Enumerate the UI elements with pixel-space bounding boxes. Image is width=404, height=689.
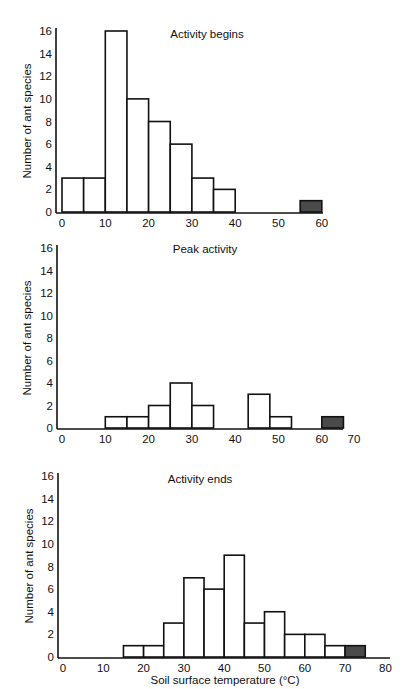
y-tick-label: 0 [46,206,52,218]
y-tick-label: 6 [48,583,54,595]
x-tick-label: 60 [298,662,311,674]
x-tick-label: 50 [272,433,285,445]
x-tick-label: 20 [142,433,155,445]
x-tick-label: 20 [142,217,155,229]
chart-title: Activity ends [168,473,233,485]
x-tick-label: 70 [339,662,352,674]
bar [270,417,292,428]
chart-title: Peak activity [173,243,238,255]
x-tick-label: 60 [315,433,328,445]
bar [204,589,224,657]
x-tick-label: 30 [178,662,191,674]
x-tick-label: 60 [315,217,328,229]
bar [244,623,264,657]
bar [325,646,345,657]
bar [224,555,244,657]
x-tick-label: 80 [379,662,392,674]
x-tick-label: 20 [137,662,150,674]
bar [214,189,236,212]
bar [105,417,127,428]
shaded-bar [300,201,322,212]
bar [62,178,84,212]
x-tick-label: 40 [229,433,242,445]
x-tick-label: 40 [229,217,242,229]
bar [164,623,184,657]
y-tick-label: 12 [40,287,53,299]
y-tick-label: 8 [46,116,52,128]
histogram-panel-3: 024681012141601020304050607080Activity e… [23,470,392,686]
y-tick-label: 4 [48,606,55,618]
y-tick-label: 12 [41,515,54,527]
y-tick-label: 14 [40,265,53,277]
bar [248,394,270,428]
y-tick-label: 6 [46,138,52,150]
shaded-bar [322,417,344,428]
bar [305,634,325,657]
y-tick-label: 2 [47,400,53,412]
bar [184,578,204,657]
x-tick-label: 10 [97,662,110,674]
y-tick-label: 8 [47,332,53,344]
x-tick-label: 10 [99,217,112,229]
y-tick-label: 2 [48,628,54,640]
bar [144,646,164,657]
x-tick-label: 0 [60,662,66,674]
y-tick-label: 6 [47,355,53,367]
y-tick-label: 10 [39,93,52,105]
bar [170,383,192,428]
bar [123,646,143,657]
histogram-panel-1: 02468101214160102030405060Activity begin… [21,25,328,229]
y-tick-label: 4 [46,161,53,173]
y-tick-label: 16 [41,470,54,482]
histogram-panel-2: 0246810121416010203040506070Peak activit… [21,242,360,445]
y-axis-label: Number of ant species [21,63,33,178]
x-axis-label: Soil surface temperature (°C) [150,674,299,686]
y-tick-label: 8 [48,561,54,573]
y-tick-label: 4 [47,377,54,389]
x-tick-label: 30 [186,433,199,445]
bar [192,178,214,212]
y-tick-label: 16 [39,25,52,37]
bar [127,99,149,212]
bar [170,144,192,212]
y-tick-label: 16 [40,242,53,254]
x-tick-label: 0 [59,433,65,445]
y-axis-label: Number of ant species [23,508,35,623]
bar [127,417,149,428]
bar [105,31,127,212]
y-tick-label: 10 [40,310,53,322]
x-tick-label: 30 [186,217,199,229]
bar [285,634,305,657]
x-tick-label: 50 [258,662,271,674]
x-tick-label: 0 [59,217,65,229]
y-axis-label: Number of ant species [21,280,33,395]
chart-title: Activity begins [170,28,244,40]
histogram-figure: 02468101214160102030405060Activity begin… [0,0,404,689]
y-tick-label: 10 [41,538,54,550]
x-tick-label: 10 [99,433,112,445]
y-tick-label: 0 [48,651,54,663]
bar [149,406,171,429]
shaded-bar [345,646,365,657]
x-tick-label: 70 [348,433,361,445]
y-tick-label: 14 [39,48,52,60]
y-tick-label: 0 [47,422,53,434]
bar [265,612,285,657]
x-tick-label: 40 [218,662,231,674]
y-tick-label: 14 [41,493,54,505]
bar [84,178,106,212]
bar [192,406,214,429]
y-tick-label: 12 [39,70,52,82]
x-tick-label: 50 [272,217,285,229]
y-tick-label: 2 [46,183,52,195]
bar [149,122,171,213]
